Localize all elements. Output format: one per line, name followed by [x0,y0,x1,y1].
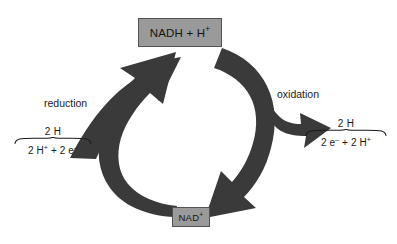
left-species-sup-2: – [74,143,78,152]
right-species-sup-2: + [367,135,371,144]
node-nad-box[interactable]: NAD+ [172,207,210,227]
right-species-top-label: 2 H [338,118,354,129]
right-brace-icon [305,129,387,136]
left-species-group: 2 H 2 H+ + 2 e– [14,126,92,156]
node-nadh-label: NADH + H+ [150,27,211,39]
left-species-top-label: 2 H [45,126,61,137]
right-species-bottom-label: 2 e– + 2 H+ [321,137,371,148]
left-brace-icon [14,137,92,144]
left-species-bottom-label: 2 H+ + 2 e– [28,145,78,156]
node-nadh-superscript: + [205,25,210,34]
node-nad-label: NAD+ [179,212,204,223]
reduction-label: reduction [44,97,87,109]
node-nadh-box[interactable]: NADH + H+ [138,18,222,47]
right-species-group: 2 H 2 e– + 2 H+ [305,118,387,148]
redox-cycle-diagram: NADH + H+ NAD+ reduction oxidation 2 H 2… [0,0,397,244]
node-nad-superscript: + [199,210,203,217]
oxidation-label: oxidation [277,88,319,100]
